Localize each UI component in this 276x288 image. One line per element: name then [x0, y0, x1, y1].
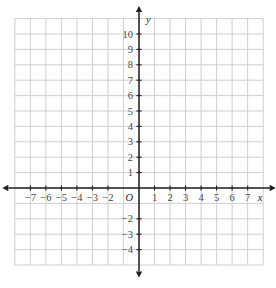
x-tick-label: 2: [167, 192, 172, 203]
x-tick-label: 3: [183, 192, 188, 203]
y-tick-label: 3: [128, 136, 133, 147]
axis-arrowhead-x-positive: [270, 185, 276, 191]
x-tick-label: 7: [245, 192, 250, 203]
x-tick-label: 4: [198, 192, 204, 203]
axis-name-labels: Oxy: [125, 14, 262, 203]
origin-label: O: [125, 192, 133, 203]
axis-arrowhead-y-positive: [136, 6, 142, 12]
x-tick-label: 1: [152, 192, 157, 203]
y-tick-label: 7: [128, 75, 133, 86]
axis-arrowhead-y-negative: [136, 272, 142, 278]
y-axis-name-label: y: [145, 14, 151, 25]
y-tick-label: −3: [122, 229, 133, 240]
y-tick-label: 8: [128, 59, 133, 70]
y-tick-label: 4: [128, 121, 134, 132]
x-tick-label: −7: [25, 192, 36, 203]
x-tick-label: −2: [102, 192, 113, 203]
y-tick-label: 9: [128, 44, 133, 55]
x-tick-label: −6: [40, 192, 51, 203]
y-tick-label: 2: [128, 152, 133, 163]
x-axis-name-label: x: [257, 192, 263, 203]
x-tick-label: −4: [71, 192, 83, 203]
y-tick-label: −4: [122, 244, 134, 255]
y-tick-label: 6: [128, 90, 133, 101]
coordinate-plane-svg: −7−6−5−4−3−21234567 10987654321−2−3−4 Ox…: [0, 0, 276, 288]
y-tick-label: 5: [128, 106, 133, 117]
coordinate-plane: −7−6−5−4−3−21234567 10987654321−2−3−4 Ox…: [0, 0, 276, 288]
x-tick-label: −3: [87, 192, 98, 203]
axis-arrowhead-x-negative: [2, 185, 8, 191]
y-tick-label: 1: [128, 167, 133, 178]
x-tick-label: 6: [229, 192, 234, 203]
y-tick-label: 10: [123, 29, 134, 40]
x-axis-tick-labels: −7−6−5−4−3−21234567: [25, 192, 250, 203]
x-tick-label: 5: [214, 192, 219, 203]
y-tick-label: −2: [122, 213, 133, 224]
x-tick-label: −5: [56, 192, 67, 203]
